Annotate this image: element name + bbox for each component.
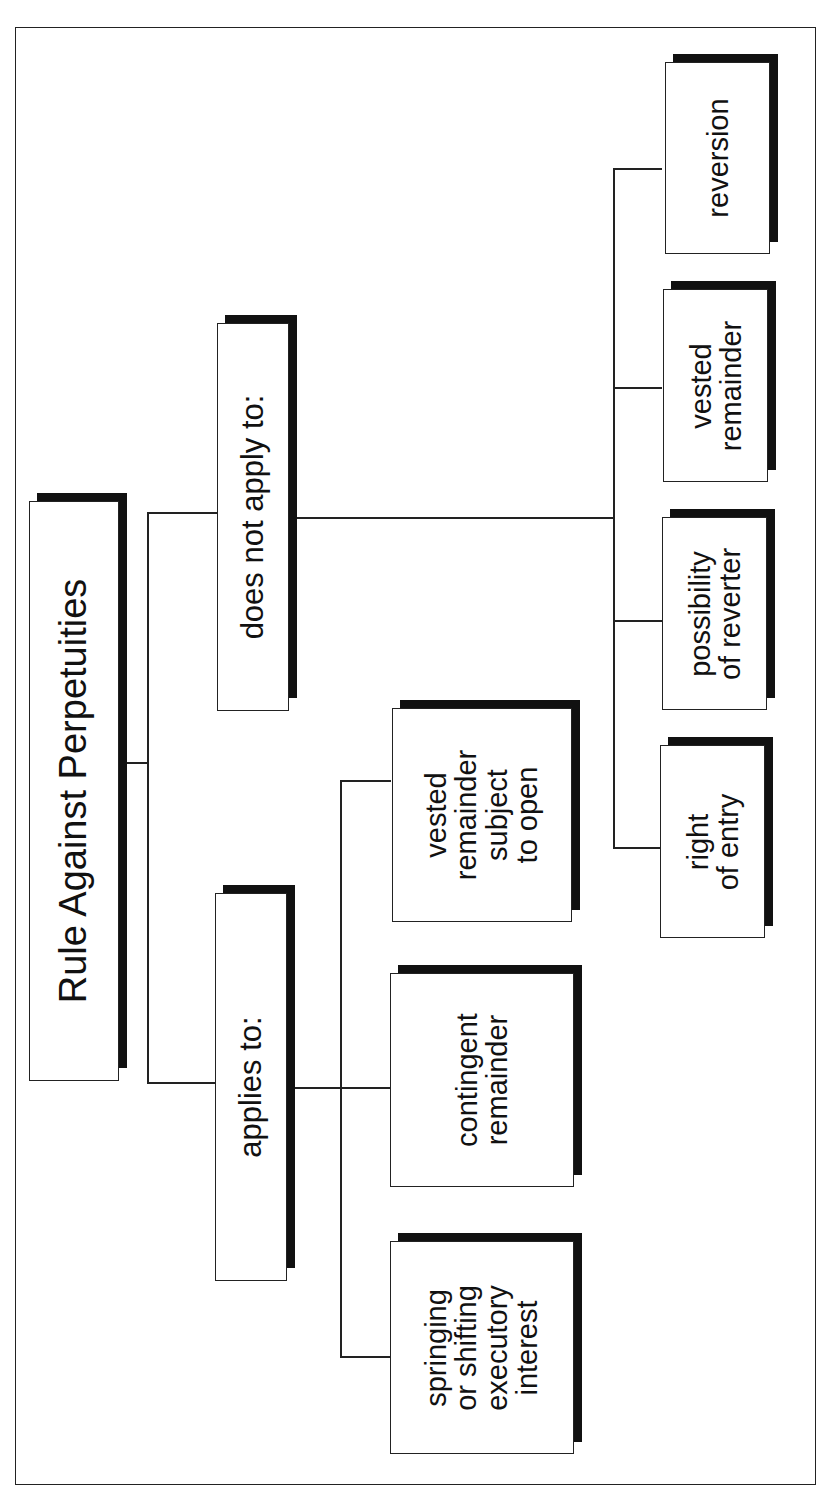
leaf-box: springing or shifting executory interest	[390, 1241, 574, 1454]
branch-label: applies to:	[235, 1016, 268, 1157]
leaf-label: reversion	[702, 98, 732, 217]
leaf-contingent-remainder: contingent remainder	[390, 973, 574, 1187]
leaf-right-of-entry: right of entry	[660, 745, 765, 938]
leaf-possibility-of-reverter: possibility of reverter	[662, 517, 767, 710]
connector	[294, 1087, 391, 1089]
connector	[296, 517, 614, 519]
leaf-label: contingent remainder	[452, 1013, 513, 1147]
leaf-label: vested remainder subject to open	[421, 750, 543, 881]
root-box: Rule Against Perpetuities	[29, 501, 119, 1081]
connector	[613, 620, 662, 622]
root-label: Rule Against Perpetuities	[54, 579, 94, 1004]
leaf-springing-or-shifting-executory-interest: springing or shifting executory interest	[390, 1241, 574, 1454]
connector	[147, 512, 149, 1084]
leaf-box: vested remainder	[663, 289, 768, 482]
leaf-label: vested remainder	[685, 320, 746, 451]
leaf-reversion: reversion	[665, 62, 770, 254]
connector	[340, 1356, 391, 1358]
connector	[613, 847, 662, 849]
leaf-label: possibility of reverter	[684, 547, 745, 679]
branch-label: does not apply to:	[237, 395, 270, 640]
leaf-box: possibility of reverter	[662, 517, 767, 710]
leaf-box: reversion	[665, 62, 770, 254]
leaf-box: vested remainder subject to open	[392, 708, 572, 922]
connector	[340, 780, 342, 1357]
connector	[147, 512, 218, 514]
connector	[613, 168, 662, 170]
root-node: Rule Against Perpetuities	[29, 501, 119, 1081]
connector	[613, 387, 662, 389]
branch-applies: applies to:	[215, 893, 287, 1281]
branch-box: applies to:	[215, 893, 287, 1281]
leaf-label: springing or shifting executory interest	[421, 1285, 543, 1411]
leaf-label: right of entry	[682, 793, 743, 890]
branch-box: does not apply to:	[217, 323, 289, 711]
connector	[340, 780, 391, 782]
leaf-vested-remainder: vested remainder	[663, 289, 768, 482]
leaf-vested-remainder-subject-to-open: vested remainder subject to open	[392, 708, 572, 922]
leaf-box: contingent remainder	[390, 973, 574, 1187]
connector	[147, 1082, 216, 1084]
connector	[613, 168, 615, 848]
branch-does-not-apply: does not apply to:	[217, 323, 289, 711]
leaf-box: right of entry	[660, 745, 765, 938]
